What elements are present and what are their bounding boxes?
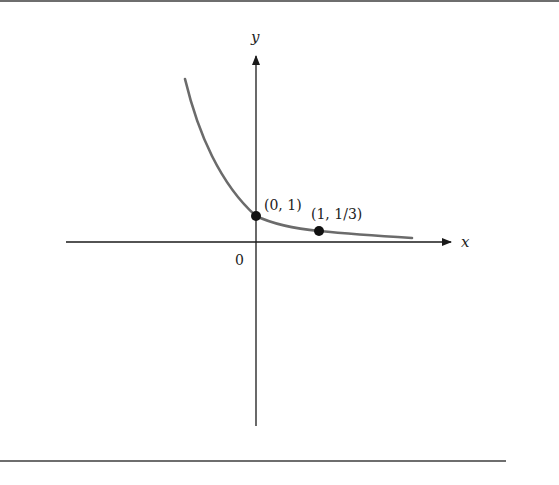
- point-1-third-label: (1, 1/3): [311, 206, 362, 222]
- y-axis-label: y: [250, 28, 260, 46]
- point-0-1-label: (0, 1): [264, 197, 302, 213]
- point-0-1: [251, 211, 261, 221]
- bottom-rule: [0, 460, 506, 462]
- exponential-curve: [185, 79, 412, 238]
- origin-label: 0: [235, 252, 244, 268]
- point-1-third: [314, 226, 324, 236]
- x-axis-label: x: [461, 233, 470, 251]
- exponential-graph: y x 0 (0, 1) (1, 1/3): [0, 0, 559, 485]
